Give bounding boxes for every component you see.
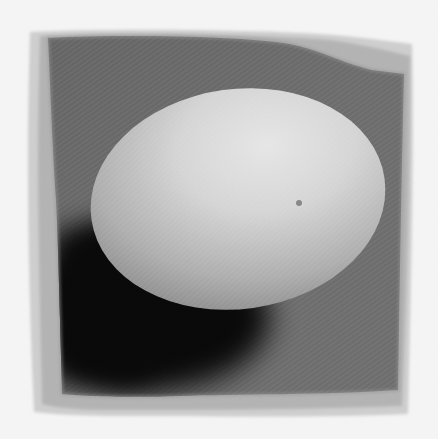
egg-photo-svg — [0, 0, 438, 439]
egg-photograph — [0, 0, 438, 439]
